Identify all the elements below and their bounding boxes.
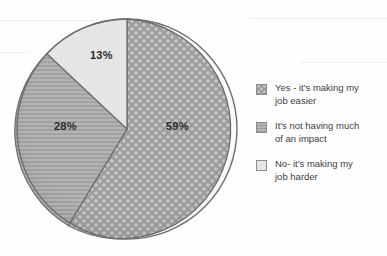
pie-chart-figure: 59% 28% 13% Yes - it's making my job eas… (0, 0, 387, 256)
chart-legend: Yes - it's making my job easier It's not… (256, 82, 387, 196)
legend-label-neutral-line2: of an impact (275, 133, 359, 146)
legend-label-yes-line1: Yes - it's making my (275, 82, 359, 93)
pie-label-no: 13% (90, 49, 113, 61)
legend-swatch-yes-icon (256, 84, 267, 95)
scan-artifact-line (250, 18, 387, 19)
legend-swatch-no-icon (256, 160, 267, 171)
legend-label-neutral: It's not having much of an impact (275, 120, 359, 145)
legend-label-neutral-line1: It's not having much (275, 120, 359, 131)
legend-label-yes: Yes - it's making my job easier (275, 82, 359, 107)
legend-label-yes-line2: job easier (275, 95, 359, 108)
pie-label-neutral: 28% (54, 120, 77, 132)
legend-item-no[interactable]: No- it's making my job harder (256, 158, 387, 183)
legend-item-neutral[interactable]: It's not having much of an impact (256, 120, 387, 145)
legend-label-no-line1: No- it's making my (275, 158, 353, 169)
scan-artifact-line (300, 62, 387, 63)
pie-graphic (12, 9, 244, 251)
legend-label-no-line2: job harder (275, 171, 353, 184)
legend-item-yes[interactable]: Yes - it's making my job easier (256, 82, 387, 107)
pie-label-yes: 59% (166, 120, 189, 132)
legend-swatch-neutral-icon (256, 122, 267, 133)
legend-label-no: No- it's making my job harder (275, 158, 353, 183)
